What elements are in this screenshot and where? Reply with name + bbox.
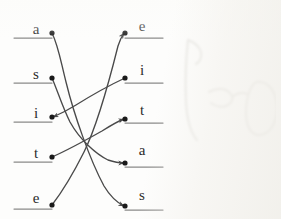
endpoint-dot-left-e[interactable] xyxy=(49,202,54,207)
letter-label-left-t: t xyxy=(27,146,45,161)
connection-i-to-i[interactable] xyxy=(53,78,125,117)
left-answer-rules xyxy=(14,38,52,209)
endpoint-dot-left-t[interactable] xyxy=(49,154,54,159)
letter-label-right-a: a xyxy=(133,143,151,158)
letter-label-right-e: e xyxy=(133,19,151,34)
connection-e-to-e[interactable] xyxy=(52,33,124,205)
letter-label-left-a: a xyxy=(27,22,45,37)
letter-label-left-i: i xyxy=(27,106,45,121)
endpoint-dot-right-s[interactable] xyxy=(122,203,127,208)
right-endpoint-dots xyxy=(122,30,127,208)
letter-label-right-s: s xyxy=(133,188,151,203)
endpoint-dot-left-s[interactable] xyxy=(49,75,54,80)
endpoint-dot-left-i[interactable] xyxy=(49,114,54,119)
connection-a-to-s[interactable] xyxy=(52,33,124,206)
letter-label-right-t: t xyxy=(133,103,151,118)
left-endpoint-dots xyxy=(49,30,54,207)
letter-label-left-s: s xyxy=(27,67,45,82)
letter-label-left-e: e xyxy=(27,191,45,206)
connection-strokes xyxy=(52,33,125,206)
endpoint-dot-right-t[interactable] xyxy=(122,116,127,121)
endpoint-dot-right-i[interactable] xyxy=(122,75,127,80)
endpoint-dot-left-a[interactable] xyxy=(49,30,54,35)
worksheet-page: asite eitas xyxy=(0,0,281,219)
letter-label-right-i: i xyxy=(133,63,151,78)
endpoint-dot-right-a[interactable] xyxy=(122,160,127,165)
endpoint-dot-right-e[interactable] xyxy=(122,30,127,35)
